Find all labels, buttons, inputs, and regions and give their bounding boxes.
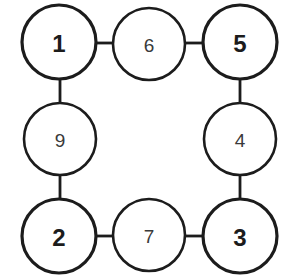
node-7[interactable]: 7 <box>113 199 185 271</box>
node-9[interactable]: 9 <box>24 103 96 175</box>
node-label-7: 7 <box>144 226 155 247</box>
node-label-2: 2 <box>52 224 65 251</box>
node-4[interactable]: 4 <box>204 103 276 175</box>
node-2[interactable]: 2 <box>22 199 96 273</box>
nodes-layer: 16594273 <box>22 5 277 273</box>
node-1[interactable]: 1 <box>22 5 96 79</box>
node-label-3: 3 <box>233 224 246 251</box>
circle-ring-diagram: 16594273 <box>0 0 292 279</box>
node-5[interactable]: 5 <box>203 5 277 79</box>
node-3[interactable]: 3 <box>203 199 277 273</box>
node-label-4: 4 <box>235 130 246 151</box>
node-label-5: 5 <box>233 30 246 57</box>
node-6[interactable]: 6 <box>113 8 185 80</box>
node-label-6: 6 <box>144 35 155 56</box>
node-label-9: 9 <box>55 130 66 151</box>
node-label-1: 1 <box>52 30 65 57</box>
diagram-canvas: 16594273 <box>0 0 292 279</box>
